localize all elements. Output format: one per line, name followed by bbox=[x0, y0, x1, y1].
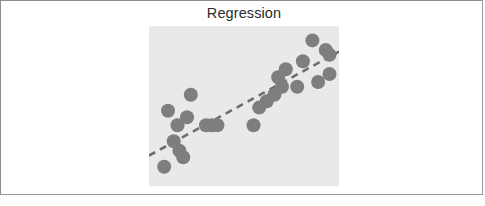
chart-title: Regression bbox=[149, 5, 339, 21]
scatter-point bbox=[184, 88, 198, 102]
plot-area bbox=[149, 26, 339, 186]
scatter-point bbox=[247, 118, 261, 132]
scatter-points-group bbox=[157, 33, 336, 173]
scatter-point bbox=[323, 48, 337, 62]
scatter-point bbox=[279, 62, 293, 76]
figure-panel: Regression bbox=[0, 0, 483, 195]
scatter-plot-svg bbox=[149, 26, 339, 186]
scatter-point bbox=[210, 118, 224, 132]
scatter-point bbox=[157, 160, 171, 174]
scatter-point bbox=[311, 75, 325, 89]
scatter-point bbox=[171, 118, 185, 132]
scatter-point bbox=[290, 80, 304, 94]
scatter-point bbox=[296, 54, 310, 68]
scatter-point bbox=[323, 67, 337, 81]
scatter-point bbox=[275, 80, 289, 94]
scatter-point bbox=[305, 33, 319, 47]
scatter-point bbox=[176, 150, 190, 164]
scatter-point bbox=[161, 104, 175, 118]
